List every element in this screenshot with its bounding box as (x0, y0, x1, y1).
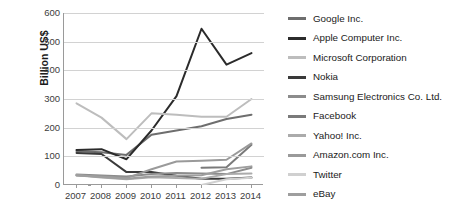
legend-swatch-icon (288, 154, 306, 157)
x-tick-mark (101, 185, 102, 188)
legend-swatch-icon (288, 37, 306, 40)
x-tick-label: 2014 (234, 190, 268, 201)
legend-item[interactable]: Twitter (288, 165, 464, 185)
legend-item[interactable]: Facebook (288, 107, 464, 127)
legend-item-label: Facebook (313, 111, 356, 121)
legend-swatch-icon (288, 134, 306, 137)
legend-item-label: Google Inc. (313, 14, 363, 24)
gridline (64, 156, 264, 157)
legend-item-label: eBay (313, 189, 335, 199)
series-line (77, 29, 252, 159)
gridline (64, 42, 264, 43)
legend-swatch-icon (288, 173, 306, 176)
y-tick-label: 100 (32, 150, 60, 161)
legend-item[interactable]: Apple Computer Inc. (288, 29, 464, 49)
legend-swatch-icon (288, 76, 306, 79)
gridline (64, 70, 264, 71)
y-tick-label: 500 (32, 36, 60, 47)
gridline (64, 99, 264, 100)
legend-item-label: Twitter (313, 170, 342, 180)
x-tick-mark (201, 185, 202, 188)
y-tick-mark (88, 185, 91, 186)
y-tick-label: 0 (32, 179, 60, 190)
x-tick-mark (176, 185, 177, 188)
legend-swatch-icon (288, 56, 306, 59)
line-chart: Billion US$ 6005004003002001000 20072008… (0, 0, 464, 219)
x-tick-mark (151, 185, 152, 188)
legend-swatch-icon (288, 95, 306, 98)
y-axis-tick-labels: 6005004003002001000 (28, 0, 60, 219)
y-tick-label: 400 (32, 64, 60, 75)
legend-item-label: Samsung Electronics Co. Ltd. (313, 92, 442, 102)
legend-swatch-icon (288, 17, 306, 20)
legend-item-label: Yahoo! Inc. (313, 131, 362, 141)
plot-area (63, 13, 263, 185)
legend-item[interactable]: eBay (288, 185, 464, 205)
x-tick-mark (226, 185, 227, 188)
y-tick-label: 200 (32, 122, 60, 133)
legend-item[interactable]: Microsoft Corporation (288, 48, 464, 68)
legend-item[interactable]: Samsung Electronics Co. Ltd. (288, 87, 464, 107)
y-tick-label: 300 (32, 93, 60, 104)
gridline (64, 128, 264, 129)
legend-swatch-icon (288, 193, 306, 196)
x-tick-mark (126, 185, 127, 188)
chart-legend: Google Inc.Apple Computer Inc.Microsoft … (288, 9, 464, 204)
legend-item-label: Apple Computer Inc. (313, 33, 402, 43)
legend-swatch-icon (288, 115, 306, 118)
legend-item-label: Microsoft Corporation (313, 53, 407, 63)
x-tick-mark (251, 185, 252, 188)
legend-item[interactable]: Yahoo! Inc. (288, 126, 464, 146)
gridline (64, 13, 264, 14)
legend-item[interactable]: Google Inc. (288, 9, 464, 29)
y-tick-label: 600 (32, 7, 60, 18)
x-tick-mark (76, 185, 77, 188)
legend-item[interactable]: Nokia (288, 68, 464, 88)
legend-item-label: Amazon.com Inc. (313, 150, 389, 160)
legend-item-label: Nokia (313, 72, 338, 82)
legend-item[interactable]: Amazon.com Inc. (288, 146, 464, 166)
